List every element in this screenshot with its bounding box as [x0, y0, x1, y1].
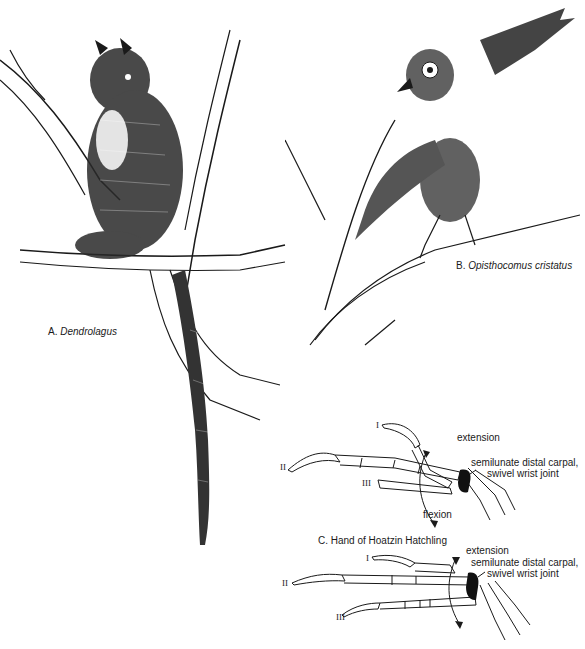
- digit-label-ii-upper: II: [280, 462, 286, 472]
- semilunate-carpal-lower: [466, 573, 479, 600]
- semilunate-carpal-upper: [458, 470, 471, 493]
- panel-a-caption: A. Dendrolagus: [48, 326, 117, 337]
- digit-label-iii-upper: III: [362, 478, 371, 488]
- joint-label-line1-upper: semilunate distal carpal,: [471, 457, 578, 468]
- extension-label-upper: extension: [457, 432, 500, 443]
- panel-a-illustration: [0, 0, 290, 560]
- panel-a-caption-taxon: Dendrolagus: [60, 326, 117, 337]
- tree-kangaroo-drawing: [0, 0, 290, 560]
- panel-c-hand-upper: I II III extension flexion semilunate di…: [280, 410, 585, 540]
- joint-label-line2-lower: swivel wrist joint: [487, 568, 559, 579]
- joint-label-line2-upper: swivel wrist joint: [487, 468, 559, 479]
- hoatzin-hatchling-drawing: [285, 0, 585, 350]
- panel-a-caption-prefix: A.: [48, 326, 57, 337]
- panel-b-caption: B. Opisthocomus cristatus: [456, 260, 572, 271]
- digit-label-i-lower: I: [366, 553, 369, 563]
- extension-label-lower: extension: [466, 545, 509, 556]
- joint-label-line1-lower: semilunate distal carpal,: [471, 557, 578, 568]
- flexion-label-upper: flexion: [423, 509, 452, 520]
- panel-b-caption-taxon: Opisthocomus cristatus: [468, 260, 572, 271]
- digit-label-i-upper: I: [376, 420, 379, 430]
- panel-c-hand-lower: I II III extension semilunate distal car…: [280, 545, 585, 649]
- digit-label-iii-lower: III: [336, 612, 345, 622]
- panel-b-caption-prefix: B.: [456, 260, 465, 271]
- panel-b-illustration: [285, 0, 585, 350]
- digit-label-ii-lower: II: [282, 578, 288, 588]
